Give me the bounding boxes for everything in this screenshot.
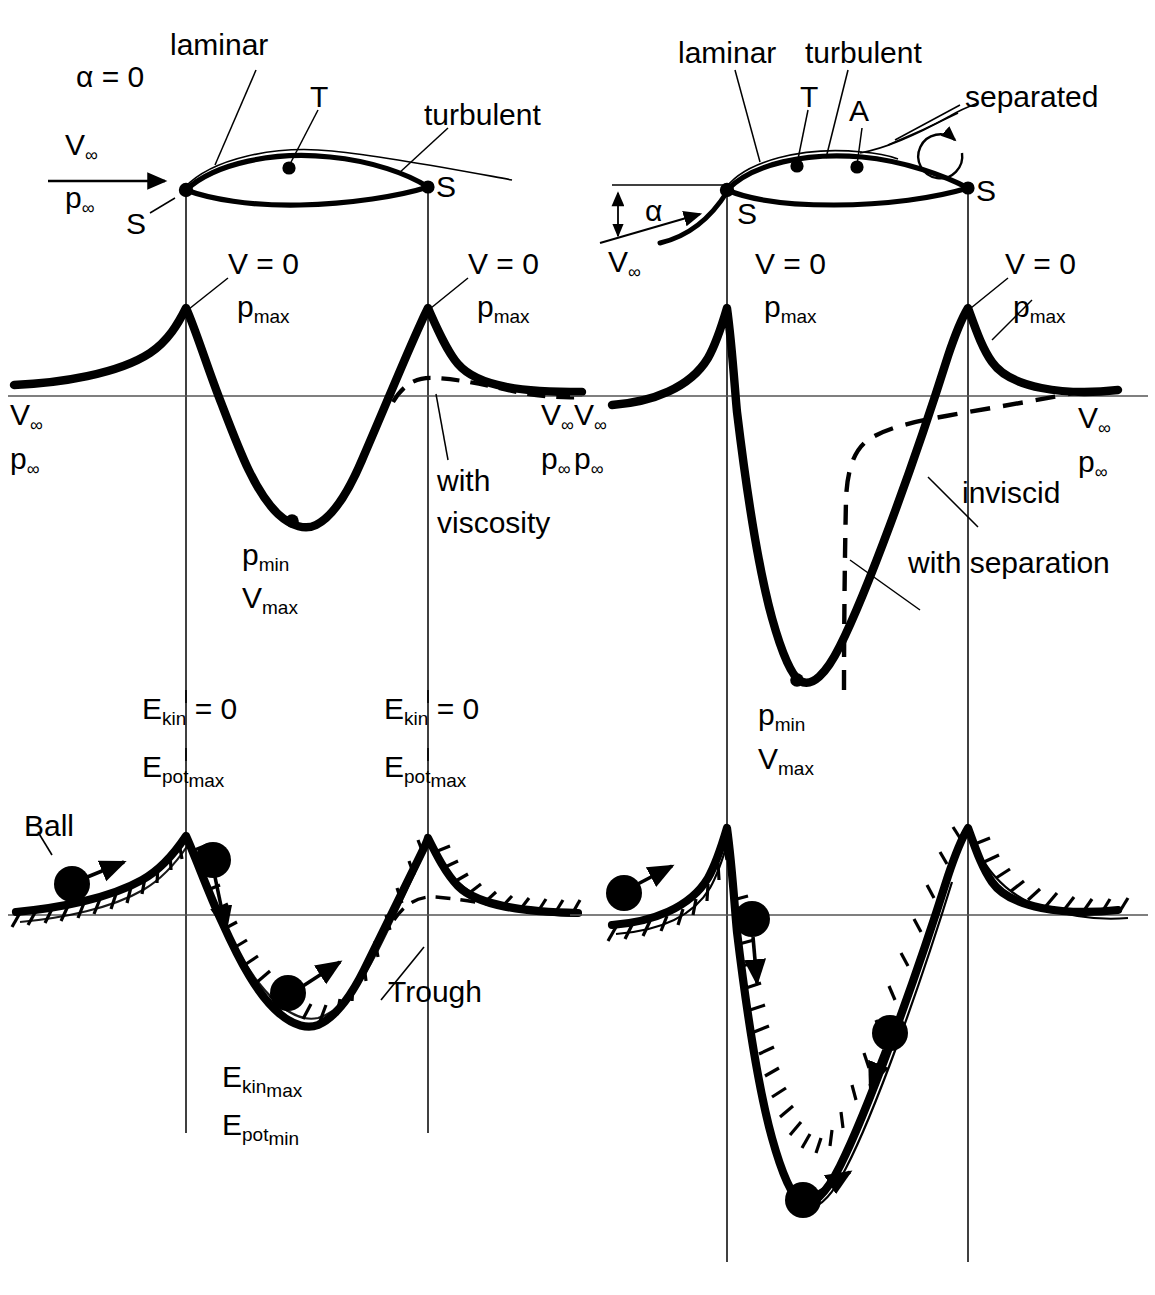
- right-right-vinf-label: V∞: [1078, 403, 1111, 437]
- right-separation-vortex-icon: [918, 134, 962, 178]
- left-pmin-dot: [285, 514, 299, 528]
- right-ball-1: [606, 866, 672, 911]
- diagram-canvas: α = 0 laminar T turbulent V∞ p∞ S S V = …: [0, 0, 1155, 1295]
- right-le-pmax-label: pmax: [764, 292, 817, 326]
- left-freestream-pressure: p∞: [65, 183, 95, 217]
- right-separated-label: separated: [965, 82, 1098, 112]
- left-le-pmax-label: pmax: [237, 292, 290, 326]
- right-pmin-dot: [790, 673, 804, 687]
- left-ball-label: Ball: [24, 811, 74, 841]
- left-ekin-max-label: Ekinmax: [222, 1062, 302, 1100]
- right-baseline-vinf-label: V∞: [574, 400, 607, 434]
- left-laminar-label: laminar: [170, 30, 268, 60]
- right-turbulent-label: turbulent: [805, 38, 922, 68]
- left-epot-min-label: Epotmin: [222, 1110, 299, 1148]
- right-pmin-label: pmin: [758, 700, 805, 734]
- right-ball-3: [870, 1015, 908, 1086]
- right-le-stagnation-label: S: [737, 199, 757, 229]
- left-freestream-velocity: V∞: [65, 130, 98, 164]
- right-right-pinf-label: p∞: [1078, 447, 1108, 481]
- right-vmax-label: Vmax: [758, 744, 814, 778]
- left-vmax-label: Vmax: [242, 583, 298, 617]
- left-ball-2: [195, 842, 231, 930]
- right-incoming-streamline: [660, 192, 727, 243]
- left-pmin-label: pmin: [242, 540, 289, 574]
- left-te-stagnation-label: S: [436, 172, 456, 202]
- right-le-vzero-label: V = 0: [755, 249, 826, 279]
- right-te-stagnation-label: S: [976, 176, 996, 206]
- left-te-pmax-label: pmax: [477, 292, 530, 326]
- left-alpha-label: α = 0: [76, 62, 144, 92]
- left-le-stagnation-label: S: [126, 209, 146, 239]
- right-trough-ground: [608, 827, 1128, 1207]
- left-baseline-vinf-label: V∞: [10, 400, 43, 434]
- left-transition-label: T: [310, 82, 328, 112]
- left-transition-dot: [282, 161, 295, 174]
- right-laminar-label: laminar: [678, 38, 776, 68]
- left-te-epot-label: Epotmax: [384, 752, 466, 790]
- right-alpha-label: α: [645, 196, 662, 226]
- right-te-pmax-label: pmax: [1013, 292, 1066, 326]
- left-pressure-curve: [14, 308, 582, 527]
- left-te-vzero-label: V = 0: [468, 249, 539, 279]
- left-with-viscosity-line2: viscosity: [437, 508, 550, 538]
- right-separation-point-label: A: [849, 96, 869, 126]
- left-right-pinf-label: p∞: [541, 444, 571, 478]
- right-inviscid-label: inviscid: [962, 478, 1060, 508]
- right-transition-label: T: [800, 82, 818, 112]
- right-te-vzero-label: V = 0: [1005, 249, 1076, 279]
- right-ball-4: [785, 1172, 850, 1218]
- right-with-separation-label: with separation: [908, 548, 1110, 578]
- left-te-ekin-label: Ekin = 0: [384, 694, 479, 728]
- left-trough-label: Trough: [388, 977, 482, 1007]
- left-le-epot-label: Epotmax: [142, 752, 224, 790]
- right-with-separation-curve: [844, 392, 1078, 690]
- left-le-vzero-label: V = 0: [228, 249, 299, 279]
- right-freestream-velocity: V∞: [608, 247, 641, 281]
- left-le-ekin-label: Ekin = 0: [142, 694, 237, 728]
- right-baseline-pinf-label: p∞: [574, 444, 604, 478]
- left-viscosity-leader: [436, 394, 448, 460]
- left-baseline-pinf-label: p∞: [10, 444, 40, 478]
- right-vzero-leaders: [971, 278, 1008, 308]
- left-right-vinf-label: V∞: [541, 400, 574, 434]
- left-turbulent-label: turbulent: [424, 100, 541, 130]
- left-with-viscosity-line1: with: [437, 466, 490, 496]
- left-ball-3: [270, 962, 340, 1011]
